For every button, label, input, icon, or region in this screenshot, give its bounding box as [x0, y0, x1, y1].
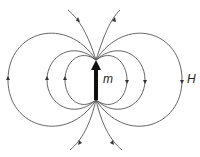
field-line-left-middle — [47, 51, 96, 110]
moment-label: m — [103, 72, 113, 86]
arrowhead-icon — [125, 80, 129, 84]
field-line-left-outer — [8, 33, 96, 126]
arrowhead-icon — [6, 76, 10, 80]
arrowhead-icon — [45, 76, 49, 80]
arrowhead-icon — [143, 80, 147, 84]
arrowhead-icon — [180, 80, 184, 84]
dipole-arrow-shaft — [94, 66, 98, 100]
field-line-left-inner — [65, 56, 96, 105]
field-line-top-left — [68, 10, 96, 60]
dipole-arrow-head-icon — [91, 60, 101, 70]
arrowhead-icon — [63, 76, 67, 80]
dipole-field-diagram — [0, 0, 200, 157]
field-label: H — [187, 72, 196, 86]
